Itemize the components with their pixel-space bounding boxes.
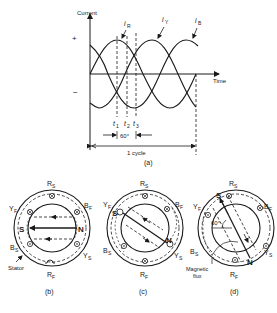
svg-text:1 cycle: 1 cycle (127, 150, 146, 156)
svg-text:F: F (198, 206, 201, 212)
svg-text:i: i (195, 17, 197, 24)
svg-text:B: B (198, 20, 202, 26)
pole-s-d: S (216, 191, 222, 200)
label-i-r: i R (122, 20, 131, 38)
svg-text:F: F (180, 204, 183, 210)
caption-d: (d) (230, 288, 239, 296)
label-i-b: i B (193, 17, 202, 38)
t2-label: t 2 (124, 120, 130, 129)
t3-label: t 3 (133, 120, 139, 129)
caption-c: (c) (139, 288, 147, 296)
svg-text:S: S (15, 247, 19, 253)
svg-text:S: S (88, 255, 92, 261)
svg-text:F: F (235, 274, 238, 280)
time-axis-label: Time (213, 78, 227, 84)
pole-s-c: S (112, 209, 118, 218)
minus-sign: − (73, 88, 78, 97)
angle-label-d: 60° (211, 220, 221, 226)
t1-label: t 1 (113, 120, 119, 129)
svg-text:R: R (127, 23, 131, 29)
svg-text:S: S (108, 250, 112, 256)
svg-text:S: S (195, 251, 199, 257)
svg-text:i: i (162, 16, 164, 23)
svg-text:F: F (145, 274, 148, 280)
svg-text:F: F (89, 205, 92, 211)
stator-diagram-d: 60° S N R S R F Y F B F B S Y S Magnetic… (186, 180, 274, 296)
svg-text:S: S (145, 183, 149, 189)
stator-label: Stator (8, 265, 24, 271)
interval-60-dimension: 60° (103, 131, 152, 139)
svg-text:S: S (52, 183, 56, 189)
pole-n-d: N (247, 258, 253, 267)
waveform-plot: Current Time + − i R i Y i B t (72, 10, 227, 167)
one-cycle-dimension: 1 cycle (91, 144, 195, 156)
svg-text:S: S (234, 183, 238, 189)
magnetic-flux-label-2: flux (193, 273, 202, 279)
rotating-field-diagram: Current Time + − i R i Y i B t (0, 0, 277, 313)
pole-n-b: N (78, 225, 84, 234)
svg-text:F: F (14, 208, 17, 214)
stator-diagram-c: S N R S R F Y F B F B S Y S (c) (103, 180, 183, 296)
svg-text:F: F (269, 206, 272, 212)
caption-a: (a) (144, 159, 153, 167)
svg-text:F: F (52, 274, 55, 280)
caption-b: (b) (45, 288, 54, 296)
svg-text:2: 2 (127, 123, 130, 129)
svg-text:S: S (179, 255, 183, 261)
svg-text:i: i (124, 20, 126, 27)
svg-text:3: 3 (136, 123, 139, 129)
pole-s-b: S (19, 225, 25, 234)
magnetic-flux-label-1: Magnetic (186, 266, 209, 272)
svg-text:S: S (269, 252, 273, 258)
svg-text:Y: Y (165, 19, 169, 25)
plus-sign: + (72, 34, 77, 43)
current-axis-label: Current (77, 10, 97, 16)
svg-text:60°: 60° (120, 133, 130, 139)
pole-n-c: N (166, 236, 172, 245)
label-i-y: i Y (158, 16, 169, 38)
stator-diagram-b: S N R S R F Y F B F B S Y S Stator (b) (8, 180, 92, 296)
svg-text:F: F (108, 204, 111, 210)
svg-text:1: 1 (116, 123, 119, 129)
